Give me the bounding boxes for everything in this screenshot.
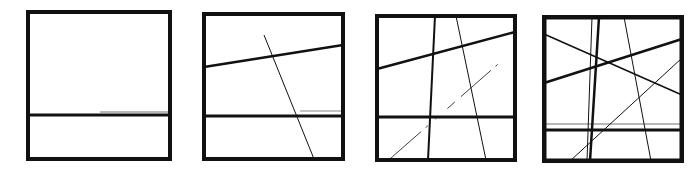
panel-frame — [28, 12, 170, 159]
panel-4 — [544, 17, 682, 161]
line-medium-slant — [544, 34, 682, 95]
panel-1 — [28, 12, 170, 159]
panel-2 — [204, 14, 343, 159]
panel-frame — [544, 17, 682, 161]
line-thick-slant — [204, 45, 343, 67]
panel-3 — [377, 16, 515, 160]
line-thick-slant — [377, 32, 515, 69]
line-medium-vertical — [428, 16, 435, 160]
line-thin-diagonal-rising — [570, 58, 682, 161]
line-thin-dashed-diagonal — [391, 58, 505, 158]
panel-frame — [204, 14, 343, 159]
line-thin-diagonal — [624, 17, 651, 161]
figure-canvas — [0, 0, 696, 173]
line-drawing-figure — [0, 0, 696, 173]
